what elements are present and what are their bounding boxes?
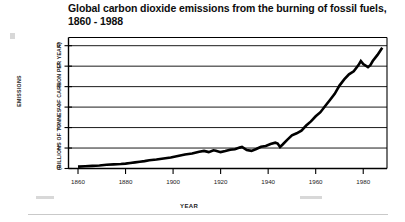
scan-artifact-line: [28, 214, 388, 215]
scan-speck: [10, 33, 15, 39]
scan-speck: [36, 196, 54, 199]
scan-speck: [300, 196, 322, 199]
chart-figure: Global carbon dioxide emissions from the…: [0, 0, 405, 222]
plot-area: [0, 0, 405, 222]
